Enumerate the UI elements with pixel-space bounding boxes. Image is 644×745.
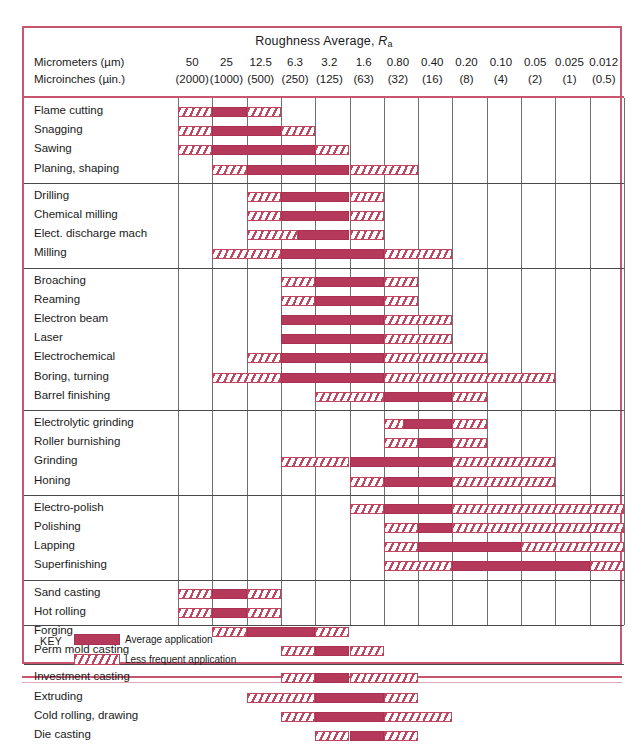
bar-less-frequent xyxy=(212,627,246,637)
bar-average xyxy=(418,523,452,533)
process-label: Flame cutting xyxy=(34,104,103,116)
key-swatch-less-frequent xyxy=(74,654,120,665)
bar-less-frequent xyxy=(590,561,624,571)
micrometers-tick-4: 3.2 xyxy=(312,56,346,68)
key-label-average: Average application xyxy=(125,634,213,645)
bar-average xyxy=(247,165,350,175)
microinches-tick-9: (4) xyxy=(484,73,518,85)
process-label: Sawing xyxy=(34,142,72,154)
process-label: Barrel finishing xyxy=(34,389,110,401)
bar-less-frequent xyxy=(452,392,486,402)
table-row: Extruding xyxy=(24,688,624,707)
table-row: Boring, turning xyxy=(24,368,624,387)
process-label: Broaching xyxy=(34,274,86,286)
bar-less-frequent xyxy=(384,523,418,533)
process-label: Electron beam xyxy=(34,312,108,324)
bar-average xyxy=(281,334,384,344)
process-label: Milling xyxy=(34,246,67,258)
roughness-chart-frame: Roughness Average, Ra Micrometers (µm)50… xyxy=(22,26,622,664)
table-row: Reaming xyxy=(24,291,624,310)
key-label-less-frequent: Less frequent application xyxy=(125,654,236,665)
process-label: Grinding xyxy=(34,454,77,466)
bar-less-frequent xyxy=(384,249,453,259)
table-row: Drilling xyxy=(24,187,624,206)
bar-less-frequent xyxy=(384,438,418,448)
microinches-unit-label: Microinches (µin.) xyxy=(34,73,125,85)
chart-title-subscript: a xyxy=(388,39,393,49)
bar-less-frequent xyxy=(452,438,486,448)
process-label: Cold rolling, drawing xyxy=(34,709,138,721)
bar-less-frequent xyxy=(452,523,624,533)
process-label: Snagging xyxy=(34,123,83,135)
microinches-tick-0: (2000) xyxy=(175,73,209,85)
bar-less-frequent xyxy=(178,145,212,155)
table-row: Electro-polish xyxy=(24,499,624,518)
microinches-tick-4: (125) xyxy=(312,73,346,85)
microinches-tick-2: (500) xyxy=(244,73,278,85)
table-row: Roller burnishing xyxy=(24,433,624,452)
bar-less-frequent xyxy=(247,107,281,117)
microinches-tick-5: (63) xyxy=(347,73,381,85)
process-label: Electro-polish xyxy=(34,501,104,513)
bar-less-frequent xyxy=(281,296,315,306)
process-label: Extruding xyxy=(34,690,83,702)
chart-title-text: Roughness Average, xyxy=(255,34,378,48)
table-row: Die casting xyxy=(24,726,624,745)
bar-average xyxy=(418,438,452,448)
bar-average xyxy=(315,277,384,287)
bar-less-frequent xyxy=(178,126,212,136)
bar-average xyxy=(350,457,453,467)
process-label: Roller burnishing xyxy=(34,435,120,447)
bar-less-frequent xyxy=(384,731,418,741)
process-label: Honing xyxy=(34,474,70,486)
bar-average xyxy=(315,296,384,306)
table-row: Electrolytic grinding xyxy=(24,414,624,433)
bar-less-frequent xyxy=(178,589,212,599)
bar-average xyxy=(315,712,384,722)
process-label: Forging xyxy=(34,624,73,636)
micrometers-tick-6: 0.80 xyxy=(381,56,415,68)
grid-line-13 xyxy=(624,98,625,625)
bar-less-frequent xyxy=(350,192,384,202)
table-row: Superfinishing xyxy=(24,556,624,575)
process-label: Hot rolling xyxy=(34,605,86,617)
bar-less-frequent xyxy=(281,646,315,656)
bar-average xyxy=(281,249,384,259)
bar-average xyxy=(315,673,349,683)
bar-less-frequent xyxy=(247,192,281,202)
group-divider-4 xyxy=(24,495,624,496)
table-row: Lapping xyxy=(24,537,624,556)
bar-less-frequent xyxy=(384,693,418,703)
bar-less-frequent xyxy=(212,165,246,175)
bar-average xyxy=(350,731,384,741)
process-label: Sand casting xyxy=(34,586,101,598)
bar-less-frequent xyxy=(384,315,453,325)
bar-less-frequent xyxy=(247,353,281,363)
group-divider-2 xyxy=(24,268,624,269)
bar-average xyxy=(384,504,453,514)
microinches-tick-3: (250) xyxy=(278,73,312,85)
bar-average xyxy=(384,477,453,487)
bar-less-frequent xyxy=(212,249,281,259)
bar-less-frequent xyxy=(315,392,384,402)
group-divider-5 xyxy=(24,580,624,581)
bar-average xyxy=(315,646,349,656)
bar-less-frequent xyxy=(315,627,349,637)
micrometers-tick-9: 0.10 xyxy=(484,56,518,68)
process-label: Elect. discharge mach xyxy=(34,227,147,239)
process-label: Drilling xyxy=(34,189,69,201)
bar-less-frequent xyxy=(281,277,315,287)
table-row: Laser xyxy=(24,329,624,348)
bar-less-frequent xyxy=(212,373,281,383)
process-label: Boring, turning xyxy=(34,370,109,382)
process-label: Reaming xyxy=(34,293,80,305)
table-row: Barrel finishing xyxy=(24,387,624,406)
table-row: Electron beam xyxy=(24,310,624,329)
bar-average xyxy=(281,353,384,363)
process-label: Planing, shaping xyxy=(34,162,119,174)
bar-less-frequent xyxy=(247,608,281,618)
table-row: Milling xyxy=(24,244,624,263)
bar-less-frequent xyxy=(384,296,418,306)
micrometers-tick-0: 50 xyxy=(175,56,209,68)
table-row: Sawing xyxy=(24,140,624,159)
